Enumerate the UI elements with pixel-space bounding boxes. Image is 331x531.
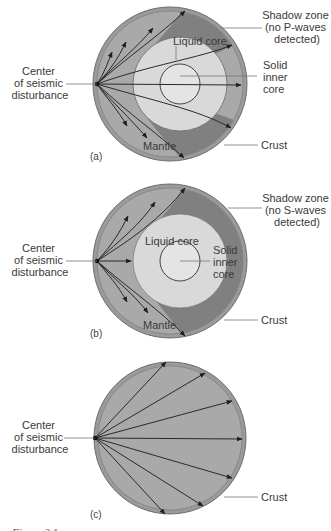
mantle-label: Mantle: [143, 140, 176, 152]
panel-b: Center of seismic disturbance Shadow zon…: [12, 180, 331, 340]
panel-c: Center of seismic disturbance Crust (c): [12, 362, 288, 520]
crust-label: Crust: [261, 314, 287, 326]
crust-label: Crust: [261, 491, 287, 503]
mantle-label: Mantle: [143, 319, 176, 331]
liquid-core-label: Liquid core: [145, 235, 199, 247]
panel-label-a: (a): [90, 151, 102, 162]
inner-core-label: Solid inner core: [263, 59, 291, 95]
figure-caption: Figure 2.1: [11, 526, 58, 531]
panel-label-b: (b): [90, 328, 102, 339]
seismic-wave-diagram: Center of seismic disturbance Shadow zon…: [0, 0, 331, 531]
center-label: Center of seismic disturbance: [12, 419, 69, 455]
panel-a: Center of seismic disturbance Shadow zon…: [12, 0, 331, 170]
center-label: Center of seismic disturbance: [12, 65, 69, 101]
shadow-zone-label: Shadow zone (no P-waves detected): [262, 9, 331, 45]
panel-label-c: (c): [90, 509, 102, 520]
center-label: Center of seismic disturbance: [12, 242, 69, 278]
shadow-zone-label: Shadow zone (no S-waves detected): [262, 192, 331, 228]
liquid-core-label: Liquid core: [173, 35, 227, 47]
crust-label: Crust: [261, 139, 287, 151]
